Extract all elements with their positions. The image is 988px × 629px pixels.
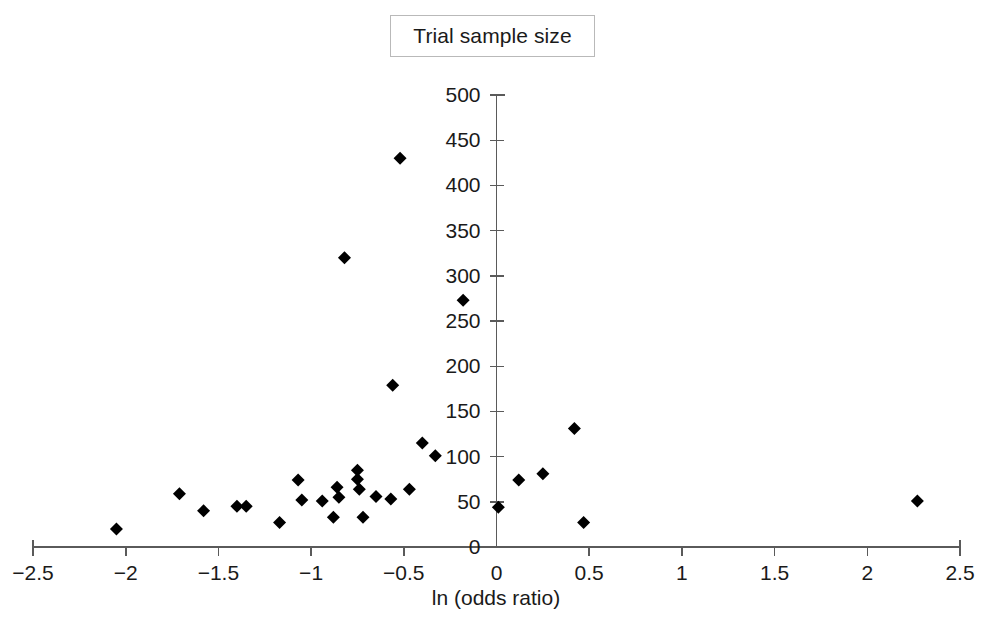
y-tick-label: 100 [0,445,481,469]
data-point [492,501,505,514]
y-tick-label: 350 [0,219,481,243]
data-point [292,474,305,487]
data-point [386,379,399,392]
data-points-layer [110,152,924,536]
plot-area: 050100150200250300350400450500 −2.5−2−1.… [0,0,988,629]
data-point [577,516,590,529]
data-point [568,422,581,435]
x-tick-label: 1 [676,561,688,585]
scatter-chart: Trial sample size 0501001502002503003504… [0,0,988,629]
y-tick-label: 400 [0,173,481,197]
y-tick-label: 250 [0,309,481,333]
data-point [457,294,470,307]
x-tick-label: −2 [114,561,138,585]
data-point [338,251,351,264]
data-point [911,494,924,507]
data-point [512,474,525,487]
x-tick-label: −0.5 [383,561,424,585]
y-tick-label: 150 [0,399,481,423]
y-tick-label: 50 [0,490,481,514]
y-tick-label: 0 [0,535,481,559]
y-tick-label: 500 [0,83,481,107]
data-point [273,516,286,529]
x-tick-label: 1.5 [760,561,789,585]
y-tick-label: 300 [0,264,481,288]
x-axis-title: ln (odds ratio) [432,586,560,610]
x-tick-label: −1.5 [198,561,239,585]
data-point [394,152,407,165]
data-point [110,522,123,535]
x-tick-label: 2.5 [945,561,974,585]
data-point [536,467,549,480]
y-tick-label: 200 [0,354,481,378]
data-point [351,473,364,486]
y-tick-label: 450 [0,128,481,152]
x-tick-label: −2.5 [12,561,53,585]
x-tick-label: 0 [491,561,503,585]
x-tick-label: −1 [299,561,323,585]
x-tick-label: 2 [861,561,873,585]
x-tick-label: 0.5 [575,561,604,585]
